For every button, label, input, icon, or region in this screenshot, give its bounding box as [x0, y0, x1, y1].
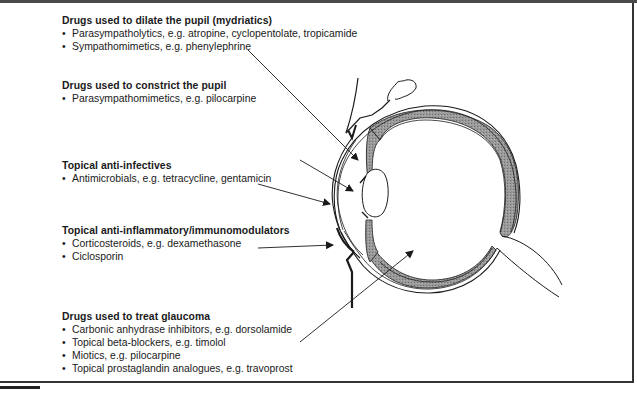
arrow-anti-inflammatory: [258, 245, 333, 248]
arrow-miotics: [300, 160, 353, 191]
arrow-mydriatics: [248, 50, 358, 160]
eye-diagram: [0, 0, 637, 395]
lens: [360, 169, 388, 218]
cornea: [332, 138, 363, 258]
arrow-glaucoma: [300, 251, 413, 342]
optic-nerve: [497, 236, 562, 297]
arrow-anti-infectives: [258, 184, 330, 204]
